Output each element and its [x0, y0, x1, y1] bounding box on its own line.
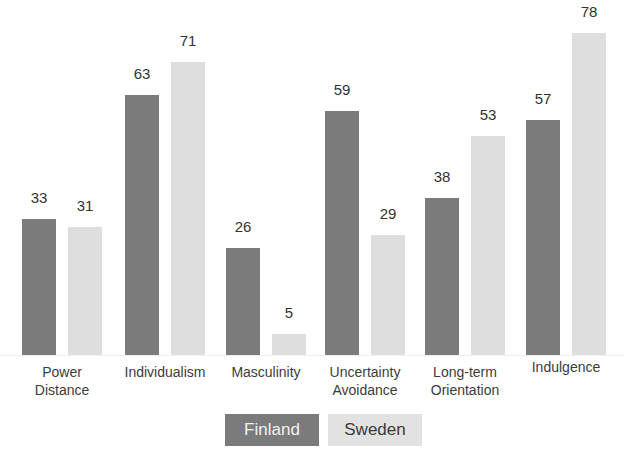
bar-finland-4 [425, 198, 459, 355]
bar-sweden-3 [371, 235, 405, 355]
value-label: 63 [122, 65, 162, 82]
value-label: 33 [19, 189, 59, 206]
bar-finland-1 [125, 95, 159, 355]
value-label: 57 [523, 90, 563, 107]
bar-sweden-0 [68, 227, 102, 355]
x-axis-baseline [0, 355, 624, 356]
value-label: 71 [168, 32, 208, 49]
value-label: 26 [223, 218, 263, 235]
value-label: 59 [322, 81, 362, 98]
category-label: PowerDistance [7, 363, 117, 399]
bar-finland-3 [325, 111, 359, 355]
bar-finland-0 [22, 219, 56, 355]
bar-sweden-4 [471, 136, 505, 355]
bar-finland-5 [526, 120, 560, 355]
value-label: 29 [368, 205, 408, 222]
bar-finland-2 [226, 248, 260, 355]
value-label: 5 [269, 304, 309, 321]
category-label: Indulgence [511, 358, 621, 376]
value-label: 38 [422, 168, 462, 185]
category-label: Long-termOrientation [410, 363, 520, 399]
legend-finland: Finland [225, 414, 319, 446]
bar-sweden-5 [572, 33, 606, 355]
category-label: Masculinity [211, 363, 321, 381]
bar-sweden-2 [272, 334, 306, 355]
bar-sweden-1 [171, 62, 205, 355]
legend-sweden: Sweden [328, 414, 422, 446]
category-label: Individualism [110, 363, 220, 381]
value-label: 53 [468, 106, 508, 123]
bar-chart: 3331PowerDistance6371Individualism265Mas… [0, 0, 624, 467]
value-label: 31 [65, 197, 105, 214]
category-label: UncertaintyAvoidance [310, 363, 420, 399]
value-label: 78 [569, 3, 609, 20]
